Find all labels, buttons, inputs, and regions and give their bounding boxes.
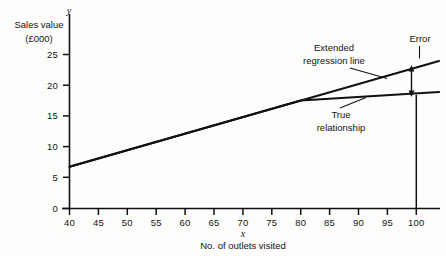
y-axis-title-line2: (£000) (5, 33, 73, 44)
annotation-extended-regression-line-2: regression line (274, 55, 394, 67)
y-axis-title-line1: Sales value (5, 19, 73, 30)
x-tick-label-100: 100 (402, 217, 430, 228)
y-axis-variable-label: y (54, 5, 84, 16)
extended-regression-leader-line (350, 68, 387, 79)
x-tick-label-40: 40 (56, 217, 84, 228)
x-tick-label-95: 95 (373, 217, 401, 228)
x-tick-label-55: 55 (142, 217, 170, 228)
annotation-true-relationship-1: True (305, 109, 377, 121)
x-tick-label-80: 80 (287, 217, 315, 228)
annotation-true-relationship-2: relationship (292, 122, 390, 134)
y-tick-label-20: 20 (36, 80, 58, 91)
x-axis-variable-label: x (228, 228, 258, 239)
x-tick-label-65: 65 (200, 217, 228, 228)
x-tick-label-70: 70 (229, 217, 257, 228)
y-tick-label-5: 5 (36, 172, 58, 183)
y-tick-label-15: 15 (36, 110, 58, 121)
x-tick-label-85: 85 (316, 217, 344, 228)
x-tick-label-45: 45 (84, 217, 112, 228)
true-relationship-leader-line (340, 98, 366, 109)
x-tick-label-90: 90 (345, 217, 373, 228)
x-axis-title: No. of outlets visited (168, 240, 318, 251)
axes (62, 14, 440, 209)
y-tick-label-25: 25 (36, 49, 58, 60)
x-tick-label-75: 75 (258, 217, 286, 228)
annotation-error: Error (400, 33, 440, 45)
x-tick-label-50: 50 (113, 217, 141, 228)
x-tick-label-60: 60 (171, 217, 199, 228)
annotation-extended-regression-line-1: Extended (288, 42, 380, 54)
y-tick-label-10: 10 (36, 141, 58, 152)
y-tick-marks (63, 55, 70, 209)
y-tick-label-0: 0 (36, 203, 58, 214)
x-tick-marks (70, 209, 417, 216)
error-double-arrow (409, 65, 415, 97)
